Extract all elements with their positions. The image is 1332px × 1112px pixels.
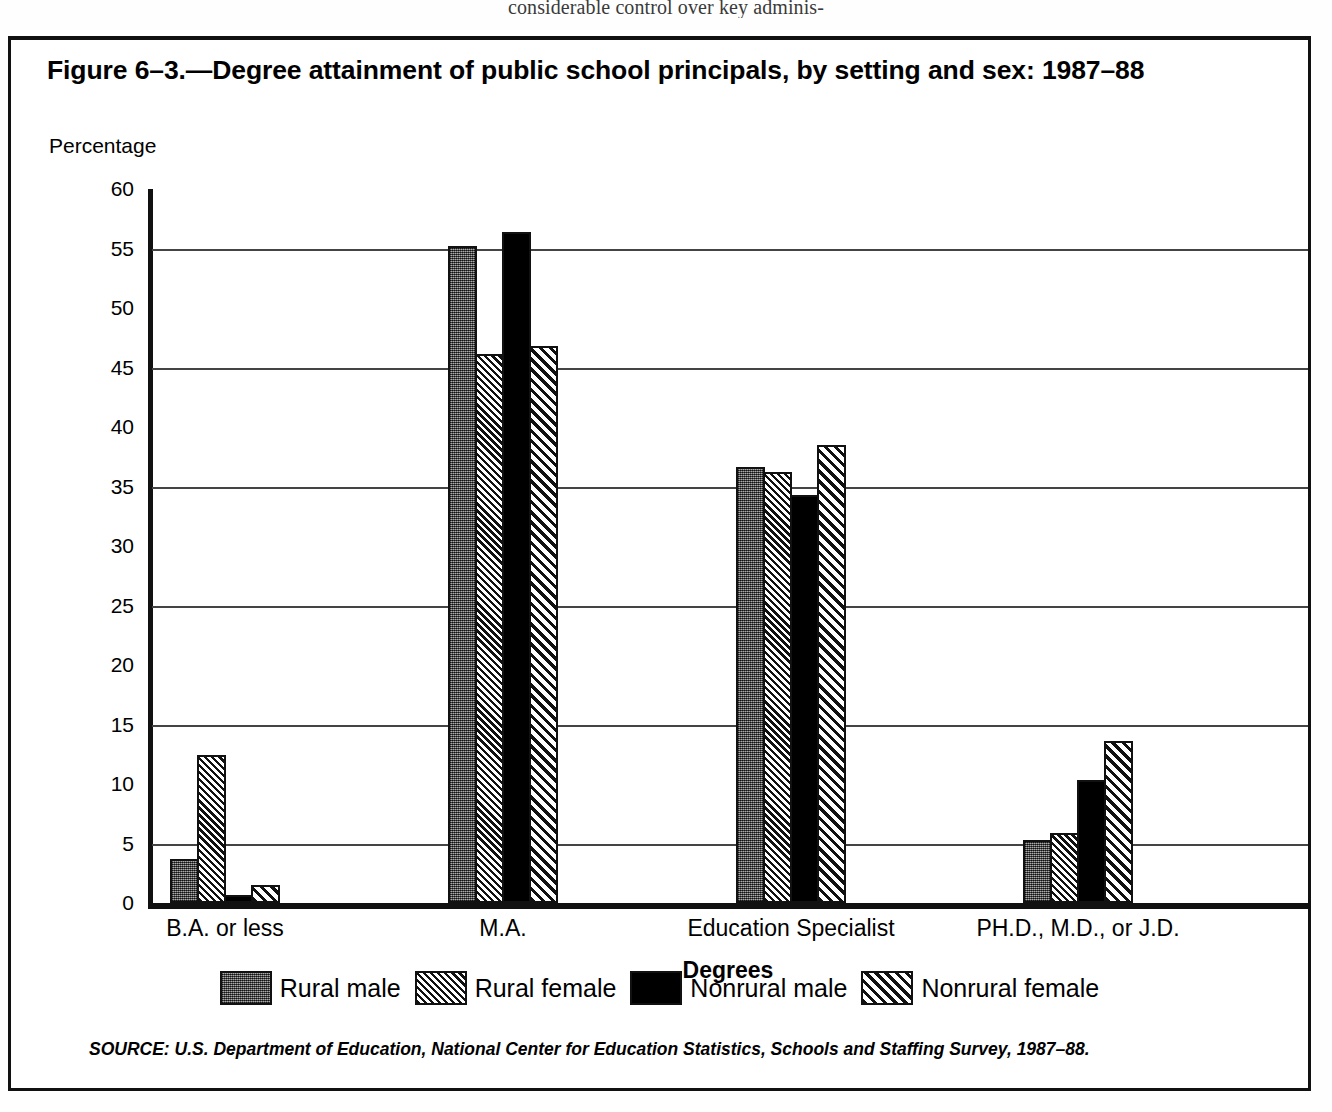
bar <box>224 895 253 903</box>
bar <box>502 232 531 903</box>
bar <box>1050 833 1079 903</box>
y-tick-label: 10 <box>111 772 134 796</box>
gridline <box>152 844 1308 846</box>
bar-group <box>736 189 846 903</box>
source-note: SOURCE: U.S. Department of Education, Na… <box>89 1039 1090 1060</box>
bar <box>170 859 199 903</box>
bar <box>817 445 846 903</box>
page-bleed-text: considerable control over key adminis- <box>0 0 1332 18</box>
y-tick-label: 25 <box>111 594 134 618</box>
plot-area: 051015202530354045505560 B.A. or lessM.A… <box>148 189 1308 903</box>
y-tick-label: 20 <box>111 653 134 677</box>
bar-group <box>1023 189 1133 903</box>
figure-frame: Figure 6–3.—Degree attainment of public … <box>8 36 1311 1091</box>
bar-group <box>170 189 280 903</box>
y-tick-label: 60 <box>111 177 134 201</box>
gridline <box>152 606 1308 608</box>
y-tick-label: 30 <box>111 534 134 558</box>
legend-item: Nonrural male <box>630 971 847 1005</box>
category-label: PH.D., M.D., or J.D. <box>976 915 1179 942</box>
bar-group <box>448 189 558 903</box>
legend-label: Rural female <box>475 974 617 1003</box>
bar <box>1104 741 1133 903</box>
figure-title: Figure 6–3.—Degree attainment of public … <box>47 55 1277 86</box>
gridline <box>152 249 1308 251</box>
legend-swatch <box>415 971 467 1005</box>
y-tick-label: 0 <box>122 891 134 915</box>
y-axis-line <box>148 189 153 903</box>
bar <box>736 467 765 903</box>
legend-item: Rural male <box>220 971 401 1005</box>
legend-swatch <box>861 971 913 1005</box>
bar <box>790 495 819 903</box>
y-tick-label: 35 <box>111 475 134 499</box>
legend-item: Nonrural female <box>861 971 1099 1005</box>
legend-label: Nonrural female <box>921 974 1099 1003</box>
legend-swatch <box>630 971 682 1005</box>
gridline <box>152 487 1308 489</box>
category-label: Education Specialist <box>687 915 894 942</box>
bar <box>251 885 280 903</box>
legend-swatch <box>220 971 272 1005</box>
x-axis-line <box>148 903 1308 909</box>
bar <box>448 246 477 903</box>
y-axis-title: Percentage <box>49 134 156 158</box>
y-tick-label: 50 <box>111 296 134 320</box>
gridline <box>152 368 1308 370</box>
bar <box>763 472 792 903</box>
y-tick-label: 40 <box>111 415 134 439</box>
bar <box>1023 840 1052 903</box>
bar <box>529 346 558 903</box>
legend-label: Nonrural male <box>690 974 847 1003</box>
bar <box>1077 780 1106 903</box>
gridline <box>152 725 1308 727</box>
y-tick-label: 5 <box>122 832 134 856</box>
legend-item: Rural female <box>415 971 617 1005</box>
bar <box>475 354 504 903</box>
category-label: M.A. <box>479 915 526 942</box>
legend-label: Rural male <box>280 974 401 1003</box>
figure-page: considerable control over key adminis- F… <box>0 0 1332 1112</box>
chart-legend: Rural maleRural femaleNonrural maleNonru… <box>11 971 1308 1005</box>
y-tick-label: 45 <box>111 356 134 380</box>
y-tick-label: 15 <box>111 713 134 737</box>
bar <box>197 755 226 903</box>
y-tick-label: 55 <box>111 237 134 261</box>
category-label: B.A. or less <box>166 915 284 942</box>
